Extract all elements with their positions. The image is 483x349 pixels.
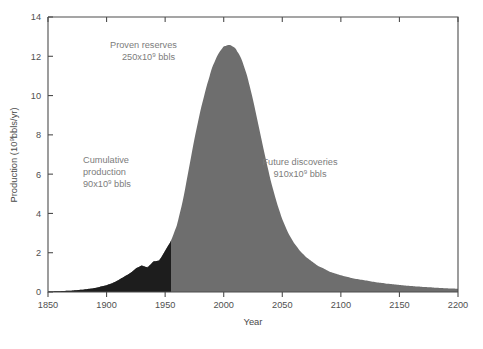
future-discoveries-amount: 910x109 bbls (273, 168, 326, 180)
cumulative-production-amount-suffix: bbls (112, 179, 132, 189)
x-tick-label: 1950 (155, 300, 175, 310)
x-tick-label: 1900 (96, 300, 116, 310)
x-axis-title: Year (244, 316, 263, 327)
future-discoveries-label: Future discoveries (262, 157, 337, 167)
x-tick-label: 1850 (38, 300, 58, 310)
proven-reserves-amount-suffix: bbls (156, 52, 176, 62)
x-tick-label: 2000 (213, 300, 233, 310)
x-tick-label: 2100 (331, 300, 351, 310)
annotation-cumulative-production: Cumulative production 90x109 bbls (83, 155, 131, 189)
proven-reserves-amount: 250x109 bbls (122, 51, 175, 63)
proven-reserves-label: Proven reserves (110, 40, 177, 50)
y-axis-title-base: Production (10 (8, 142, 19, 203)
svg-text:Production (109bbls/yr): Production (109bbls/yr) (8, 107, 20, 202)
figure-container: 18501900195020002050210021502200 0246810… (0, 0, 483, 349)
y-axis-title: Production (109bbls/yr) (8, 107, 20, 202)
y-tick-label: 12 (31, 52, 41, 62)
x-tick-label: 2050 (272, 300, 292, 310)
x-tick-label: 2150 (389, 300, 409, 310)
cumulative-production-line1: Cumulative (83, 155, 129, 165)
y-tick-label: 4 (36, 209, 41, 219)
oil-production-peak-chart: 18501900195020002050210021502200 0246810… (0, 0, 483, 349)
proven-reserves-amount-prefix: 250x10 (122, 52, 152, 62)
cumulative-production-amount: 90x109 bbls (83, 178, 131, 190)
y-tick-label: 10 (31, 91, 41, 101)
future-discoveries-amount-suffix: bbls (307, 169, 327, 179)
cumulative-production-line2: production (83, 167, 126, 177)
y-tick-label: 2 (36, 248, 41, 258)
y-tick-label: 8 (36, 130, 41, 140)
y-tick-label: 0 (36, 287, 41, 297)
cumulative-production-amount-prefix: 90x10 (83, 179, 108, 189)
y-tick-label: 6 (36, 170, 41, 180)
y-tick-label: 14 (31, 12, 41, 22)
x-tick-label: 2200 (448, 300, 468, 310)
future-discoveries-amount-prefix: 910x10 (273, 169, 303, 179)
y-axis-title-tail: bbls/yr) (8, 107, 19, 138)
